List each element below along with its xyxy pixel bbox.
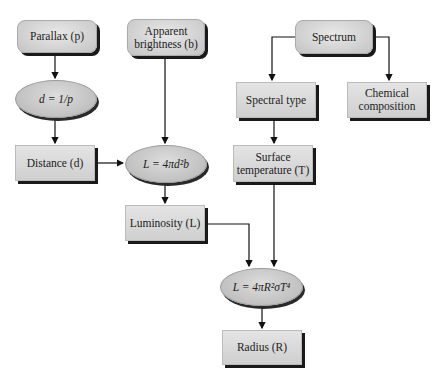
spectrum-node: Spectrum <box>295 20 373 54</box>
luminosity-label: Luminosity (L) <box>130 217 201 230</box>
spectrum-label: Spectrum <box>312 31 356 44</box>
spectral-type-node: Spectral type <box>236 82 316 118</box>
parallax-node: Parallax (p) <box>17 20 97 53</box>
apparent-brightness-label-2: brightness (b) <box>134 38 198 51</box>
distance-node: Distance (d) <box>15 145 95 181</box>
parallax-label: Parallax (p) <box>30 30 84 43</box>
arrow-spectrum-to-chemical <box>374 37 389 80</box>
radius-formula-node: L = 4πR²σT⁴ <box>220 268 303 306</box>
connector-lines <box>0 0 443 368</box>
apparent-brightness-node: Apparent brightness (b) <box>127 19 205 56</box>
apparent-brightness-label-1: Apparent <box>145 25 188 38</box>
surface-temperature-label-1: Surface <box>255 151 290 164</box>
radius-node: Radius (R) <box>222 330 302 365</box>
luminosity-formula-label: L = 4πd²b <box>143 158 189 171</box>
distance-formula-node: d = 1/p <box>15 80 97 118</box>
luminosity-node: Luminosity (L) <box>125 205 205 241</box>
surface-temperature-label-2: temperature (T) <box>237 164 309 177</box>
radius-label: Radius (R) <box>237 341 287 354</box>
distance-formula-label: d = 1/p <box>39 93 73 106</box>
arrow-luminosity-to-radius-formula <box>207 224 249 266</box>
chemical-composition-label-2: composition <box>359 100 416 113</box>
luminosity-formula-node: L = 4πd²b <box>125 145 207 183</box>
distance-label: Distance (d) <box>27 157 84 170</box>
spectral-type-label: Spectral type <box>246 94 306 107</box>
chemical-composition-label-1: Chemical <box>365 87 409 100</box>
arrow-spectrum-to-spectral-type <box>272 37 295 80</box>
surface-temperature-node: Surface temperature (T) <box>233 145 313 182</box>
chemical-composition-node: Chemical composition <box>347 82 427 118</box>
radius-formula-label: L = 4πR²σT⁴ <box>233 281 291 294</box>
